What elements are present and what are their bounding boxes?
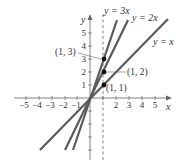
point-1-3 <box>102 57 107 62</box>
svg-text:3: 3 <box>127 100 132 110</box>
x-axis-label: x <box>165 101 171 112</box>
svg-text:−2: −2 <box>58 100 68 110</box>
svg-text:2: 2 <box>82 67 87 77</box>
label-y-2x: y = 2x <box>131 12 158 23</box>
svg-text:1: 1 <box>82 80 87 90</box>
svg-text:−3: −3 <box>45 100 55 110</box>
chart: −5 −4 −3 −2 −1 2 3 4 5 x 1 2 3 4 5 y y =… <box>0 0 192 162</box>
label-y-3x: y = 3x <box>103 5 130 16</box>
point-1-2 <box>102 70 107 75</box>
svg-text:5: 5 <box>82 28 87 38</box>
label-y-x: y = x <box>152 36 174 47</box>
y-axis-label: y <box>80 14 86 25</box>
y-tick-labels: 1 2 3 4 5 <box>82 28 87 90</box>
svg-text:3: 3 <box>82 54 87 64</box>
label-point-1-2: (1, 2) <box>127 67 148 78</box>
label-point-1-3: (1, 3) <box>55 47 76 58</box>
svg-text:−5: −5 <box>19 100 29 110</box>
y-axis-arrow-icon <box>88 14 93 20</box>
svg-text:4: 4 <box>82 41 87 51</box>
svg-text:5: 5 <box>153 100 158 110</box>
x-axis-arrow-icon <box>166 96 172 101</box>
label-point-1-1: (1, 1) <box>106 83 127 94</box>
svg-text:4: 4 <box>140 100 145 110</box>
svg-text:2: 2 <box>114 100 119 110</box>
svg-text:−4: −4 <box>32 100 42 110</box>
